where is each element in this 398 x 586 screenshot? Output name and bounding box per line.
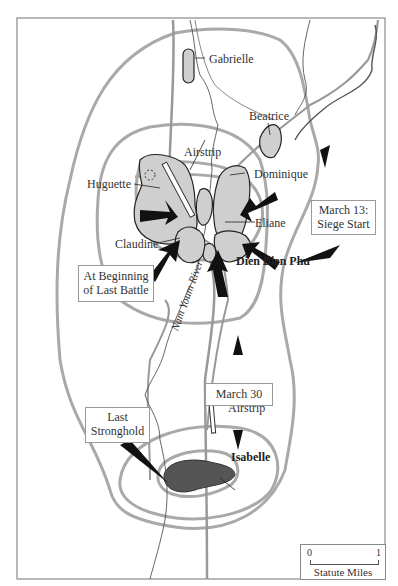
label-isabelle: Isabelle <box>231 451 270 463</box>
label-dominique: Dominique <box>254 168 308 180</box>
scale-max: 1 <box>376 547 381 558</box>
callout-last-battle-line1: At Beginning <box>84 270 149 284</box>
label-gabrielle: Gabrielle <box>209 53 254 65</box>
strongpoint-claudine <box>175 227 205 263</box>
scale-bar: 0 1 Statute Miles <box>300 544 386 580</box>
scale-min: 0 <box>307 547 312 558</box>
strongpoint-beatrice <box>260 125 282 158</box>
callout-last-stronghold: Last Stronghold <box>85 407 150 443</box>
callout-march-30: March 30 <box>205 383 273 406</box>
strongpoint-center <box>196 189 212 226</box>
label-airstrip-north: Airstrip <box>184 146 221 158</box>
callout-last-battle-line2: of Last Battle <box>83 284 148 298</box>
callout-siege-start-line1: March 13: <box>319 204 369 218</box>
label-claudine: Claudine <box>115 238 158 250</box>
label-eliane: Eliane <box>255 217 286 229</box>
strongpoint-gabrielle <box>183 49 194 83</box>
callout-last-stronghold-line2: Stronghold <box>91 425 144 439</box>
callout-last-stronghold-line1: Last <box>107 411 128 425</box>
label-huguette: Huguette <box>87 178 131 190</box>
callout-march-30-text: March 30 <box>216 388 262 402</box>
callout-siege-start-line2: Siege Start <box>317 218 369 232</box>
scale-unit: Statute Miles <box>301 566 385 578</box>
callout-last-battle: At Beginning of Last Battle <box>78 265 154 302</box>
label-dien-bien-phu: Dien Bien Phu <box>236 255 310 267</box>
scale-line <box>310 560 379 565</box>
callout-siege-start: March 13: Siege Start <box>311 200 376 235</box>
map-canvas <box>0 0 398 586</box>
label-beatrice: Beatrice <box>249 110 289 122</box>
